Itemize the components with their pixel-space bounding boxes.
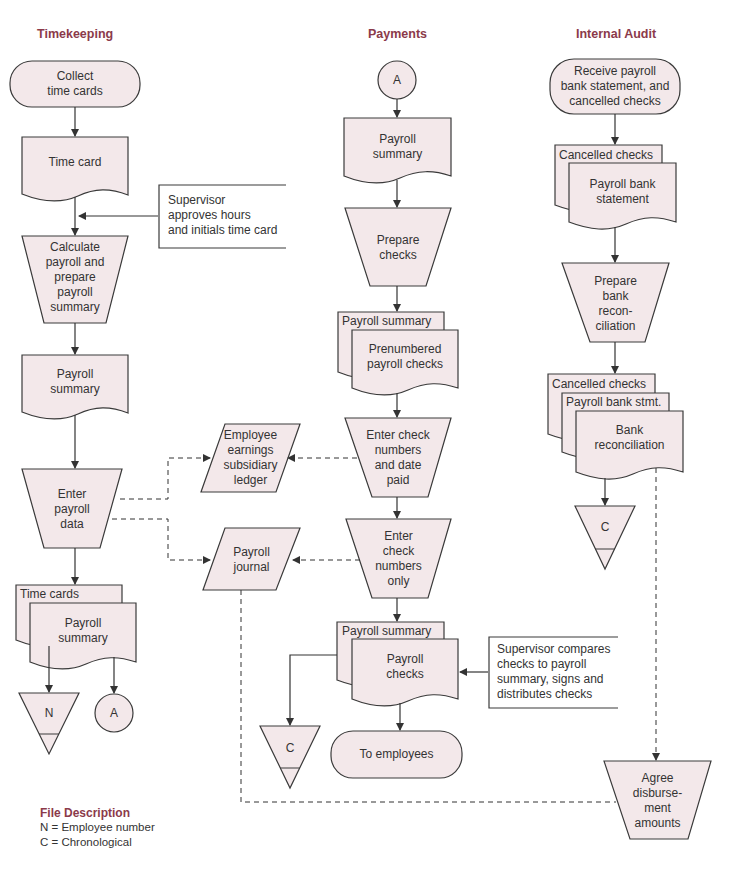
file-c-payments-label: C (260, 741, 320, 756)
payroll-summary-label: Payroll summary (22, 367, 128, 397)
bank-recon-label: Bank reconciliation (576, 423, 683, 453)
employee-earnings-label: Employee earnings subsidiary ledger (201, 428, 300, 488)
enter-check-date-label: Enter check numbers and date paid (345, 428, 451, 488)
file-n-label: N (19, 706, 79, 721)
file-c-triangle-payments (260, 726, 320, 788)
legend-item-c: C = Chronological (40, 836, 132, 848)
lane-heading-payments: Payments (368, 27, 427, 41)
agree-disbursement-label: Agree disburse- ment amounts (604, 771, 711, 831)
enter-payroll-data-label: Enter payroll data (22, 487, 122, 532)
prenumbered-checks-label: Prenumbered payroll checks (352, 342, 458, 372)
payroll-summary-payments-label: Payroll summary (344, 132, 451, 162)
to-employees-label: To employees (331, 747, 462, 762)
file-n-triangle (19, 693, 79, 754)
lane-heading-internal-audit: Internal Audit (576, 27, 656, 41)
payroll-summary-back-label: Payroll summary (342, 314, 431, 329)
legend-title: File Description (40, 806, 130, 820)
payroll-bank-statement-label: Payroll bank statement (569, 177, 676, 207)
payments-annotation-text: Supervisor compares checks to payroll su… (497, 642, 610, 702)
receive-statement-label: Receive payroll bank statement, and canc… (550, 64, 680, 109)
time-cards-label: Time cards (20, 587, 79, 602)
file-c-audit-label: C (575, 520, 635, 535)
prepare-recon-label: Prepare bank recon- ciliation (562, 274, 669, 334)
legend-item-n: N = Employee number (40, 821, 155, 833)
lane-heading-timekeeping: Timekeeping (37, 27, 113, 41)
payroll-checks-label: Payroll checks (352, 652, 458, 682)
payroll-journal-label: Payroll journal (203, 545, 300, 575)
payroll-summary-back-2-label: Payroll summary (342, 624, 431, 639)
cancelled-checks-label: Cancelled checks (559, 148, 653, 163)
time-card-label: Time card (22, 155, 128, 170)
connector-a-label: A (95, 706, 133, 721)
calculate-payroll-label: Calculate payroll and prepare payroll su… (22, 240, 128, 315)
collect-time-cards-label: Collect time cards (10, 69, 140, 99)
enter-check-only-label: Enter check numbers only (346, 529, 451, 589)
timekeeping-annotation-text: Supervisor approves hours and initials t… (168, 193, 277, 238)
payroll-summary-label-2: Payroll summary (30, 616, 136, 646)
cancelled-checks-2-label: Cancelled checks (552, 377, 646, 392)
payroll-bank-stmt-2-label: Payroll bank stmt. (566, 395, 661, 410)
file-c-triangle-audit (575, 506, 635, 569)
prepare-checks-label: Prepare checks (345, 233, 451, 263)
connector-a-onpage-label: A (378, 73, 416, 88)
